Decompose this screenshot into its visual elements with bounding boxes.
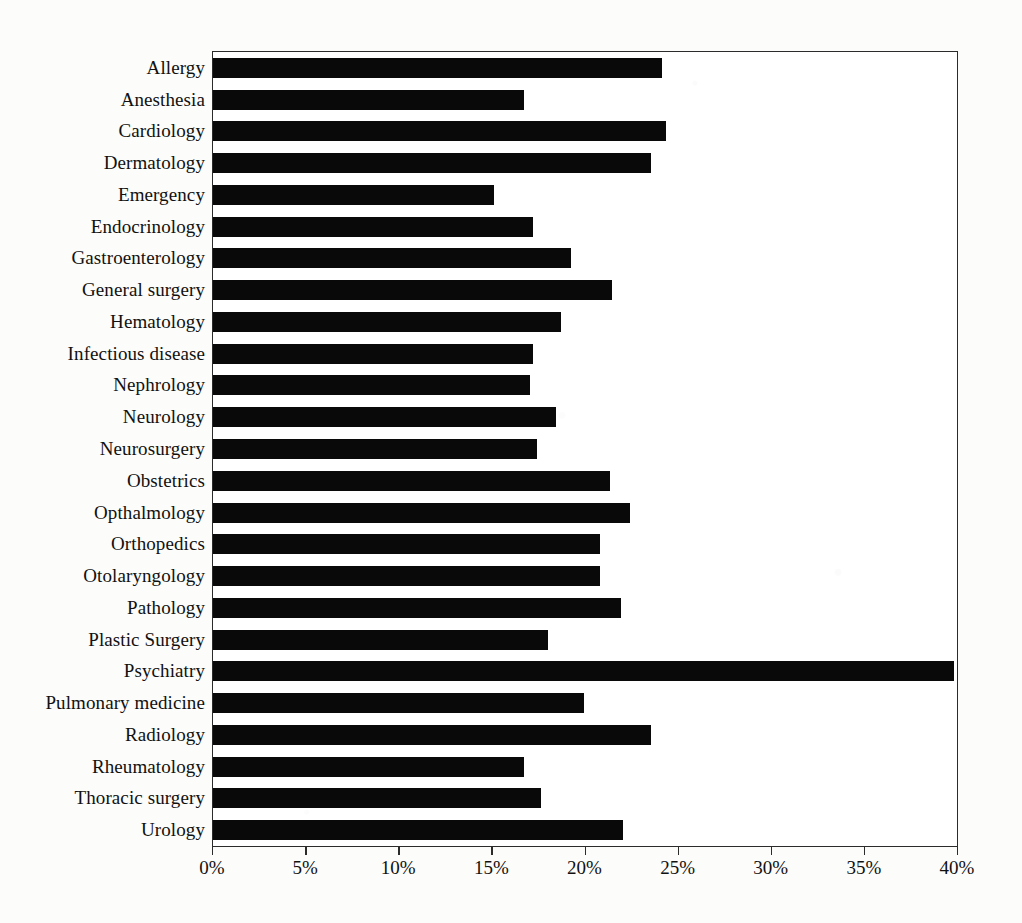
bar	[213, 153, 651, 173]
y-axis-category-labels: AllergyAnesthesiaCardiologyDermatologyEm…	[0, 51, 205, 847]
bar	[213, 598, 621, 618]
bar	[213, 185, 494, 205]
x-axis-tick	[957, 847, 958, 855]
y-axis-label: Neurology	[0, 407, 205, 426]
bar	[213, 439, 537, 459]
y-axis-label: Otolaryngology	[0, 566, 205, 585]
y-axis-label: Urology	[0, 820, 205, 839]
y-axis-label: Pathology	[0, 598, 205, 617]
bar	[213, 471, 610, 491]
x-axis-tick	[585, 847, 586, 855]
bar	[213, 661, 954, 681]
y-axis-label: Orthopedics	[0, 534, 205, 553]
bar	[213, 248, 571, 268]
y-axis-label: Hematology	[0, 312, 205, 331]
y-axis-label: General surgery	[0, 280, 205, 299]
bar	[213, 121, 666, 141]
x-axis-tick-label: 35%	[846, 857, 881, 879]
y-axis-label: Emergency	[0, 185, 205, 204]
y-axis-label: Psychiatry	[0, 661, 205, 680]
bar	[213, 407, 556, 427]
y-axis-label: Nephrology	[0, 375, 205, 394]
y-axis-label: Infectious disease	[0, 344, 205, 363]
bar	[213, 788, 541, 808]
bar	[213, 312, 561, 332]
y-axis-label: Obstetrics	[0, 471, 205, 490]
x-axis-tick-label: 25%	[660, 857, 695, 879]
bar	[213, 375, 530, 395]
bar	[213, 534, 600, 554]
x-axis-tick	[771, 847, 772, 855]
bar	[213, 58, 662, 78]
y-axis-label: Radiology	[0, 725, 205, 744]
x-axis-tick-label: 0%	[199, 857, 224, 879]
bar	[213, 344, 533, 364]
x-axis-tick	[398, 847, 399, 855]
y-axis-label: Plastic Surgery	[0, 630, 205, 649]
y-axis-label: Pulmonary medicine	[0, 693, 205, 712]
x-axis-tick-label: 10%	[381, 857, 416, 879]
x-axis-tick-label: 5%	[292, 857, 317, 879]
x-axis-tick	[864, 847, 865, 855]
y-axis-label: Dermatology	[0, 153, 205, 172]
x-axis-tick-label: 40%	[940, 857, 975, 879]
bar-series	[213, 52, 958, 846]
bar	[213, 503, 630, 523]
y-axis-label: Neurosurgery	[0, 439, 205, 458]
y-axis-label: Endocrinology	[0, 217, 205, 236]
x-axis-tick-label: 20%	[567, 857, 602, 879]
y-axis-label: Gastroenterology	[0, 248, 205, 267]
y-axis-label: Cardiology	[0, 121, 205, 140]
x-axis-tick	[212, 847, 213, 855]
x-axis-tick	[491, 847, 492, 855]
bar	[213, 90, 524, 110]
chart-page: AllergyAnesthesiaCardiologyDermatologyEm…	[0, 0, 1022, 923]
bar	[213, 566, 600, 586]
bar	[213, 630, 548, 650]
x-axis-tick	[678, 847, 679, 855]
x-axis-tick-label: 30%	[753, 857, 788, 879]
bar	[213, 757, 524, 777]
x-axis-tick	[305, 847, 306, 855]
y-axis-label: Anesthesia	[0, 90, 205, 109]
y-axis-label: Rheumatology	[0, 757, 205, 776]
x-axis: 0%5%10%15%20%25%30%35%40%	[212, 847, 958, 893]
bar	[213, 693, 584, 713]
bar	[213, 280, 612, 300]
x-axis-tick-label: 15%	[474, 857, 509, 879]
y-axis-label: Allergy	[0, 58, 205, 77]
bar	[213, 725, 651, 745]
bar	[213, 820, 623, 840]
bar	[213, 217, 533, 237]
y-axis-label: Thoracic surgery	[0, 788, 205, 807]
y-axis-label: Opthalmology	[0, 503, 205, 522]
